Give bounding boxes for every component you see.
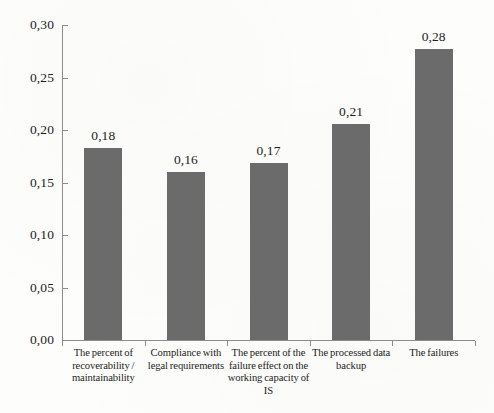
bar <box>167 172 205 340</box>
x-tick-mark <box>62 341 63 346</box>
y-tick-label: 0,15 <box>8 176 54 190</box>
x-tick-mark <box>392 341 393 346</box>
category-label-line: backup <box>304 360 399 373</box>
category-label: Compliance withlegal requirements <box>139 347 234 372</box>
category-label: The failures <box>386 347 481 360</box>
x-tick-mark <box>310 341 311 346</box>
category-label-line: The failures <box>386 347 481 360</box>
bar-value-label: 0,18 <box>63 129 143 143</box>
category-label-line: recoverability / <box>56 360 151 373</box>
bar <box>84 148 122 340</box>
category-label-line: maintainability <box>56 372 151 385</box>
bar-value-label: 0,21 <box>311 105 391 119</box>
category-label-line: working capacity of <box>221 372 316 385</box>
y-tick-mark <box>62 25 68 26</box>
bar-value-label: 0,28 <box>394 30 474 44</box>
category-label-line: failure effect on the <box>221 360 316 373</box>
x-tick-mark <box>227 341 228 346</box>
y-tick-label: 0,00 <box>8 333 54 347</box>
y-tick-label: 0,05 <box>8 281 54 295</box>
y-tick-label: 0,10 <box>8 228 54 242</box>
category-label-line: The processed data <box>304 347 399 360</box>
x-tick-mark <box>475 341 476 346</box>
y-tick-mark <box>62 183 68 184</box>
y-tick-label: 0,25 <box>8 71 54 85</box>
category-label: The percent of thefailure effect on thew… <box>221 347 316 397</box>
category-label: The processed databackup <box>304 347 399 372</box>
category-label-line: legal requirements <box>139 360 234 373</box>
category-label-line: IS <box>221 385 316 398</box>
bar <box>250 163 288 340</box>
category-label-line: The percent of <box>56 347 151 360</box>
bar <box>415 49 453 340</box>
y-tick-label: 0,20 <box>8 123 54 137</box>
x-tick-mark <box>145 341 146 346</box>
bar-chart: 0,300,250,200,150,100,050,00 0,180,160,1… <box>0 0 494 413</box>
bar-value-label: 0,16 <box>146 153 226 167</box>
y-tick-label: 0,30 <box>8 18 54 32</box>
bar-value-label: 0,17 <box>229 144 309 158</box>
y-tick-mark <box>62 78 68 79</box>
y-tick-mark <box>62 235 68 236</box>
bar <box>332 124 370 340</box>
x-axis-line <box>62 340 475 341</box>
category-label: The percent ofrecoverability /maintainab… <box>56 347 151 385</box>
y-tick-mark <box>62 288 68 289</box>
category-label-line: Compliance with <box>139 347 234 360</box>
category-label-line: The percent of the <box>221 347 316 360</box>
